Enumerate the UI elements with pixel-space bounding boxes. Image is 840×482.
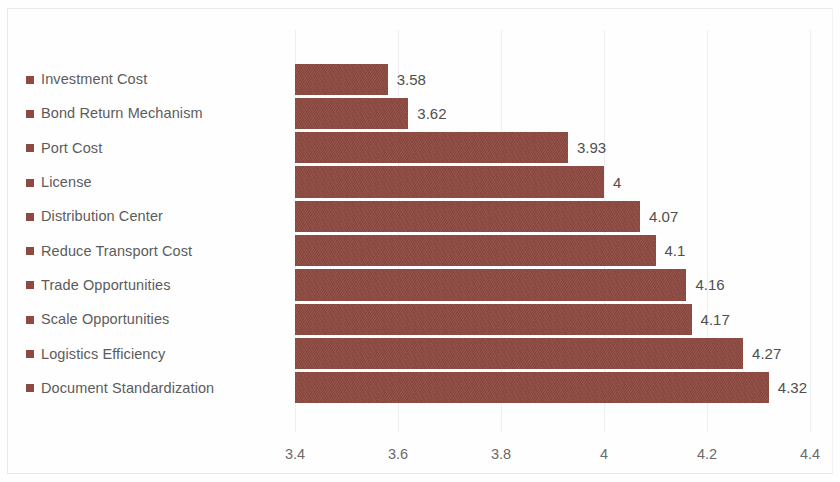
bar-value-label: 4.27	[752, 346, 781, 361]
legend-item[interactable]: License	[26, 165, 288, 199]
x-axis-tick-label: 3.6	[388, 446, 408, 462]
x-axis: 3.43.63.844.24.4	[295, 446, 810, 466]
legend-swatch-icon	[26, 76, 34, 84]
bar-value-label: 4.1	[665, 243, 686, 258]
bar[interactable]	[295, 201, 640, 232]
bar-row: 3.62	[295, 96, 810, 130]
legend-item[interactable]: Reduce Transport Cost	[26, 233, 288, 267]
legend-swatch-icon	[26, 316, 34, 324]
bar[interactable]	[295, 235, 656, 266]
bar-value-label: 3.58	[397, 72, 426, 87]
legend-swatch-icon	[26, 179, 34, 187]
legend-item-label: Document Standardization	[41, 380, 214, 396]
legend-item[interactable]: Port Cost	[26, 131, 288, 165]
bar-row: 4.1	[295, 233, 810, 267]
bar-row: 4.17	[295, 302, 810, 336]
bar[interactable]	[295, 338, 743, 369]
legend-swatch-icon	[26, 110, 34, 118]
bar-value-label: 3.93	[577, 140, 606, 155]
bars: 3.583.623.9344.074.14.164.174.274.32	[295, 62, 810, 405]
bar-value-label: 4	[613, 175, 621, 190]
legend-item-label: Investment Cost	[41, 71, 147, 87]
bar-value-label: 3.62	[417, 106, 446, 121]
legend-item[interactable]: Investment Cost	[26, 62, 288, 96]
bar-value-label: 4.17	[701, 312, 730, 327]
legend-item-label: License	[41, 174, 92, 190]
legend-swatch-icon	[26, 144, 34, 152]
bar-row: 4	[295, 165, 810, 199]
bar-value-label: 4.07	[649, 209, 678, 224]
legend-item[interactable]: Trade Opportunities	[26, 268, 288, 302]
bar[interactable]	[295, 98, 408, 129]
bar-row: 3.93	[295, 131, 810, 165]
bar-row: 4.32	[295, 371, 810, 405]
legend-swatch-icon	[26, 350, 34, 358]
bar-value-label: 4.32	[778, 380, 807, 395]
gridline	[810, 30, 811, 432]
x-axis-tick-label: 3.8	[491, 446, 511, 462]
legend-swatch-icon	[26, 384, 34, 392]
x-axis-tick-label: 4.4	[800, 446, 820, 462]
bar[interactable]	[295, 372, 769, 403]
legend-item[interactable]: Scale Opportunities	[26, 302, 288, 336]
legend-item[interactable]: Document Standardization	[26, 371, 288, 405]
legend-item[interactable]: Bond Return Mechanism	[26, 96, 288, 130]
bar-row: 4.27	[295, 336, 810, 370]
legend-item-label: Reduce Transport Cost	[41, 243, 192, 259]
x-axis-tick-label: 4.2	[697, 446, 717, 462]
bar-row: 4.16	[295, 268, 810, 302]
category-legend: Investment CostBond Return MechanismPort…	[26, 62, 288, 405]
legend-swatch-icon	[26, 281, 34, 289]
legend-swatch-icon	[26, 247, 34, 255]
bar[interactable]	[295, 304, 692, 335]
legend-item-label: Bond Return Mechanism	[41, 105, 203, 121]
bar[interactable]	[295, 269, 686, 300]
bar[interactable]	[295, 166, 604, 197]
bar-chart: Investment CostBond Return MechanismPort…	[0, 0, 840, 482]
bar[interactable]	[295, 132, 568, 163]
bar-row: 3.58	[295, 62, 810, 96]
legend-item-label: Distribution Center	[41, 208, 163, 224]
x-axis-tick-label: 3.4	[285, 446, 305, 462]
plot-area: 3.583.623.9344.074.14.164.174.274.32	[295, 30, 810, 432]
legend-item-label: Logistics Efficiency	[41, 346, 165, 362]
legend-item-label: Trade Opportunities	[41, 277, 171, 293]
bar-value-label: 4.16	[695, 277, 724, 292]
legend-item-label: Scale Opportunities	[41, 311, 169, 327]
legend-item[interactable]: Distribution Center	[26, 199, 288, 233]
legend-item-label: Port Cost	[41, 140, 102, 156]
x-axis-tick-label: 4	[600, 446, 608, 462]
legend-swatch-icon	[26, 213, 34, 221]
bar[interactable]	[295, 64, 388, 95]
legend-item[interactable]: Logistics Efficiency	[26, 336, 288, 370]
bar-row: 4.07	[295, 199, 810, 233]
